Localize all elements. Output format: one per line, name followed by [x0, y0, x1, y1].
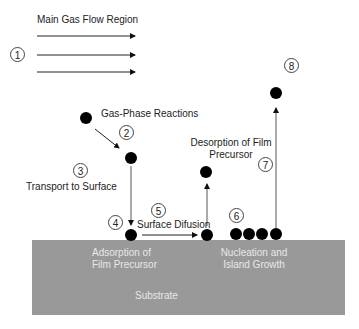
step-1-marker: 1	[10, 47, 25, 62]
step-2-marker: 2	[119, 125, 134, 140]
nucleation-line-2: Island Growth	[214, 259, 294, 271]
step-6-marker: 6	[229, 208, 244, 223]
transport-to-surface-label: Transport to Surface	[26, 181, 117, 193]
desorption-line-1: Desorption of Film	[183, 137, 279, 149]
step-5-marker: 5	[151, 203, 166, 218]
surface-diffusion-label: Surface Difusion	[137, 219, 210, 231]
adsorption-label: Adsorption of Film Precursor	[92, 247, 157, 271]
nucleation-label: Nucleation and Island Growth	[214, 247, 294, 271]
nucleation-line-1: Nucleation and	[214, 247, 294, 259]
step-8-marker: 8	[284, 58, 299, 73]
gas-phase-reactions-label: Gas-Phase Reactions	[101, 108, 198, 120]
desorption-label: Desorption of Film Precursor	[183, 137, 279, 161]
step-4-marker: 4	[108, 215, 123, 230]
adsorption-line-1: Adsorption of	[92, 247, 157, 259]
substrate-label: Substrate	[135, 290, 178, 302]
diagram-arrows	[0, 0, 359, 329]
desorption-line-2: Precursor	[183, 149, 279, 161]
adsorption-line-2: Film Precursor	[92, 259, 157, 271]
main-gas-flow-label: Main Gas Flow Region	[37, 14, 138, 26]
step-3-marker: 3	[73, 163, 88, 178]
